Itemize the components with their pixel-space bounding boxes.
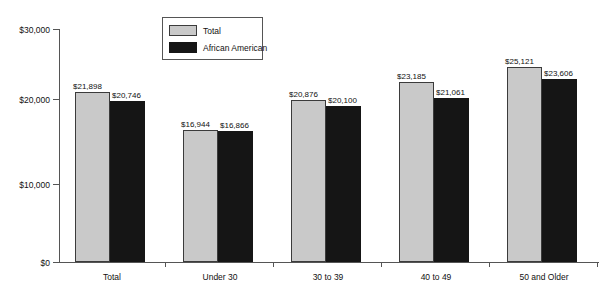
bar-total-total: $21,898 (75, 92, 110, 262)
x-axis-category-label-50-and-older: 50 and Older (504, 272, 584, 282)
chart-legend: Total African American (162, 17, 263, 60)
bar-value-label: $23,185 (397, 72, 426, 81)
bar-african-american-under-30: $16,866 (218, 131, 253, 262)
bar-african-american-40-to-49: $21,061 (434, 98, 469, 262)
bar-total-under-30: $16,944 (183, 130, 218, 262)
bar-value-label: $21,061 (436, 88, 465, 97)
bar-value-label: $20,100 (328, 96, 357, 105)
bar-african-american-50-and-older: $23,606 (542, 79, 577, 262)
bar-value-label: $16,866 (220, 121, 249, 130)
legend-item-african-american: African American (169, 40, 256, 55)
plot-area: $21,898 $20,746 $16,944 $16,866 $20,876 … (0, 0, 613, 299)
x-axis-category-label-total: Total (72, 272, 152, 282)
bar-total-50-and-older: $25,121 (507, 67, 542, 262)
bar-value-label: $21,898 (73, 82, 102, 91)
x-axis-category-label-under-30: Under 30 (180, 272, 260, 282)
x-axis-category-label-30-to-39: 30 to 39 (288, 272, 368, 282)
bar-chart: $30,000 $20,000 $10,000 $0 $21,898 $20,7… (0, 0, 613, 299)
x-axis-category-label-40-to-49: 40 to 49 (396, 272, 476, 282)
black-swatch-icon (169, 42, 197, 53)
legend-label-total: Total (203, 26, 221, 36)
bar-value-label: $23,606 (544, 69, 573, 78)
bar-african-american-total: $20,746 (110, 101, 145, 262)
bar-value-label: $25,121 (505, 57, 534, 66)
bar-total-30-to-39: $20,876 (291, 100, 326, 262)
legend-item-total: Total (169, 23, 256, 38)
bar-value-label: $20,746 (112, 91, 141, 100)
gray-swatch-icon (169, 25, 197, 36)
bar-total-40-to-49: $23,185 (399, 82, 434, 262)
bar-value-label: $20,876 (289, 90, 318, 99)
legend-label-african-american: African American (203, 43, 267, 53)
bar-african-american-30-to-39: $20,100 (326, 106, 361, 262)
bar-value-label: $16,944 (181, 120, 210, 129)
